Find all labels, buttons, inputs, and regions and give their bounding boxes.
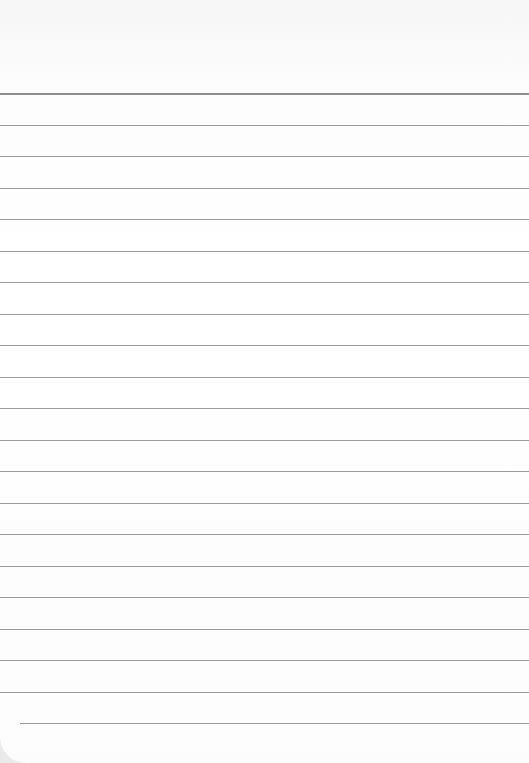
ruled-line (0, 440, 529, 441)
ruled-line (0, 251, 529, 252)
ruled-line (0, 93, 529, 95)
ruled-line (0, 471, 529, 472)
ruled-line (0, 377, 529, 378)
ruled-line (0, 314, 529, 315)
ruled-line (0, 408, 529, 409)
ruled-line (0, 660, 529, 661)
ruled-line (0, 629, 529, 630)
ruled-line (0, 692, 529, 693)
ruled-line (0, 282, 529, 283)
ruled-line (0, 534, 529, 535)
ruled-line (0, 566, 529, 567)
ruled-line (0, 125, 529, 126)
ruled-line (0, 188, 529, 189)
ruled-line (0, 156, 529, 157)
ruled-paper (0, 0, 529, 763)
ruled-line (0, 219, 529, 220)
ruled-line (20, 723, 529, 724)
ruled-line (0, 597, 529, 598)
ruled-line (0, 345, 529, 346)
ruled-line (0, 503, 529, 504)
